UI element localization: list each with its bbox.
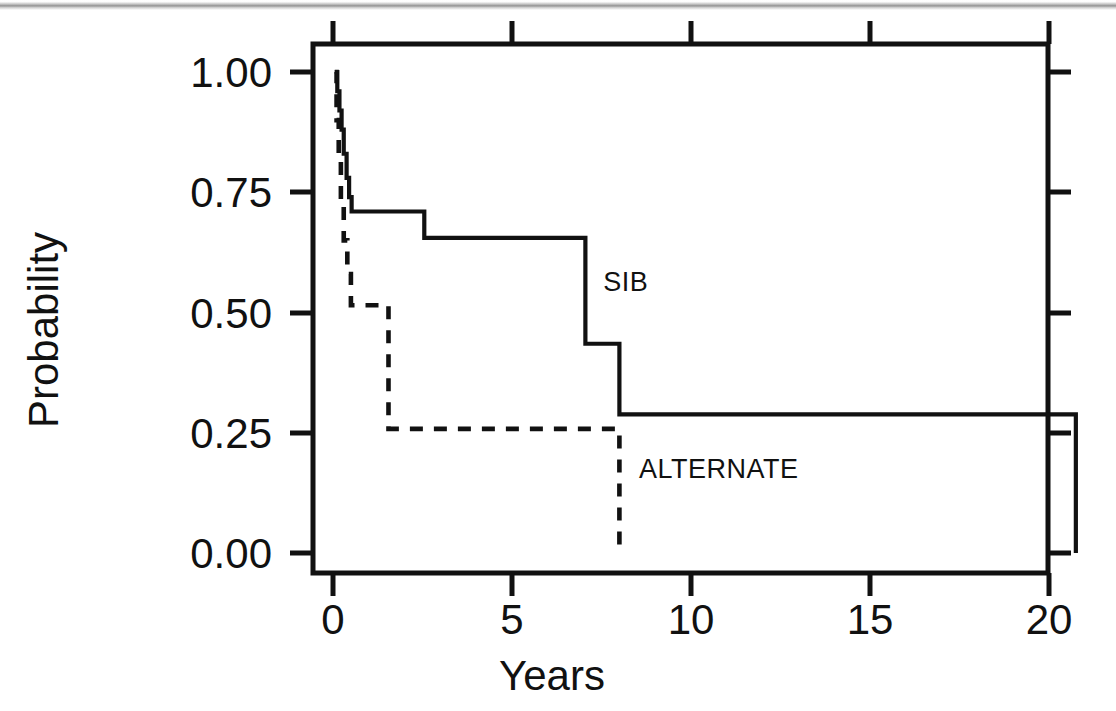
x-tick-labels: 0 5 10 15 20	[321, 596, 1072, 643]
series-label-alternate: ALTERNATE	[639, 454, 799, 484]
y-axis-ticks-left	[290, 72, 313, 553]
x-axis-ticks-bottom	[333, 573, 1049, 596]
plot-frame	[313, 44, 1048, 573]
ytick-label-0-50: 0.50	[190, 290, 272, 337]
x-axis-title: Years	[499, 652, 605, 699]
ytick-label-0-75: 0.75	[190, 169, 272, 216]
xtick-label-15: 15	[847, 596, 894, 643]
xtick-label-5: 5	[500, 596, 523, 643]
y-axis-ticks-right	[1048, 72, 1071, 553]
xtick-label-20: 20	[1026, 596, 1073, 643]
ytick-label-1-00: 1.00	[190, 49, 272, 96]
chart-svg: 1.00 0.75 0.50 0.25 0.00 0 5 10 15 20 Ye…	[0, 0, 1116, 711]
series-label-sib: SIB	[603, 267, 648, 297]
y-tick-labels: 1.00 0.75 0.50 0.25 0.00	[190, 49, 272, 577]
xtick-label-10: 10	[668, 596, 715, 643]
ytick-label-0-25: 0.25	[190, 410, 272, 457]
ytick-label-0-00: 0.00	[190, 530, 272, 577]
xtick-label-0: 0	[321, 596, 344, 643]
kaplan-meier-chart: 1.00 0.75 0.50 0.25 0.00 0 5 10 15 20 Ye…	[0, 0, 1116, 711]
figure-page: 1.00 0.75 0.50 0.25 0.00 0 5 10 15 20 Ye…	[0, 0, 1116, 711]
curve-alternate	[335, 72, 620, 553]
x-axis-ticks-top	[333, 21, 1049, 44]
y-axis-title: Probability	[20, 232, 67, 428]
